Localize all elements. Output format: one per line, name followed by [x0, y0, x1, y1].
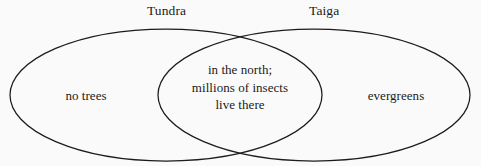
venn-diagram: Tundra Taiga no trees evergreens in the …: [0, 0, 481, 166]
right-only-region-text: evergreens: [348, 87, 444, 105]
left-set-label: Tundra: [147, 4, 186, 18]
intersection-line-1: in the north;: [168, 61, 312, 79]
intersection-region-text: in the north; millions of insects live t…: [168, 61, 312, 114]
left-only-region-text: no trees: [38, 87, 134, 105]
intersection-line-3: live there: [168, 96, 312, 114]
intersection-line-2: millions of insects: [168, 79, 312, 97]
right-set-label: Taiga: [309, 4, 339, 18]
